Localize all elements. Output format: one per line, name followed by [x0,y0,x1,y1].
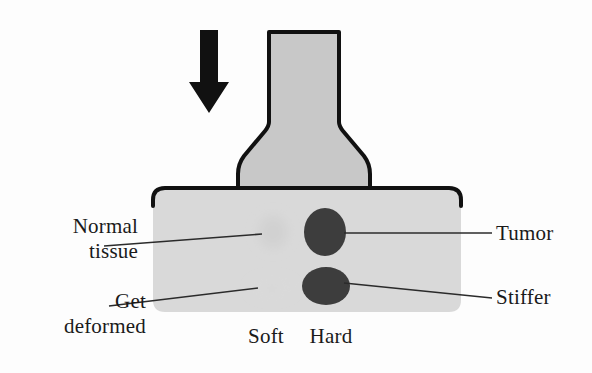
label-soft: Soft [238,324,294,349]
stiffer-inclusion [302,267,350,305]
normal-tissue-inclusion [253,210,293,254]
label-normal-tissue: Normal tissue [26,214,138,264]
label-stiffer: Stiffer [496,285,588,310]
tumor-inclusion [304,208,346,256]
figure-root: Normal tissue Get deformed Tumor Stiffer… [0,0,592,373]
downward-force-arrow-icon [189,30,229,113]
indenter-probe-shape [238,32,370,190]
label-tumor: Tumor [496,221,586,246]
label-get-deformed: Get deformed [16,289,146,339]
label-hard: Hard [300,324,362,349]
